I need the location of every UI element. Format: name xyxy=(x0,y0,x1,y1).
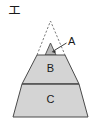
region-b-label: B xyxy=(47,62,54,74)
region-c-label: C xyxy=(47,93,55,105)
region-a-shape xyxy=(45,43,56,55)
region-a-label: A xyxy=(68,35,76,47)
figure-container: エ A B C xyxy=(0,0,96,123)
callout-leader-line xyxy=(53,43,67,52)
pyramid-diagram: A B C xyxy=(0,0,96,123)
